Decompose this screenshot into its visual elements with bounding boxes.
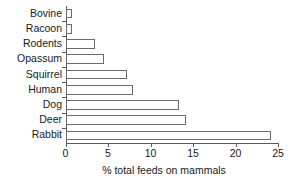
category-label-squirrel: Squirrel [26,69,62,80]
y-axis-tick [62,113,66,114]
x-axis-tick-label: 10 [145,147,157,159]
category-label-human: Human [28,84,62,95]
bar-rodents [66,39,96,49]
bar-squirrel [66,70,127,80]
bar-row [66,21,279,36]
y-axis-tick [62,21,66,22]
bar-chart-figure: BovineRacoonRodentsOpassumSquirrelHumanD… [0,0,300,184]
bar-bovine [66,9,73,19]
category-label-opassum: Opassum [17,53,62,64]
x-axis-tick-label: 20 [230,147,242,159]
category-label-deer: Deer [39,114,62,125]
plot-area [66,6,279,143]
x-axis-tick [278,143,279,147]
y-axis-tick [62,67,66,68]
category-label-racoon: Racoon [26,23,62,34]
x-axis-line [66,143,279,144]
bar-opassum [66,54,104,64]
bar-row [66,52,279,67]
x-axis-tick [66,143,67,147]
category-label-rabbit: Rabbit [32,129,62,140]
bar-row [66,36,279,51]
category-label-rodents: Rodents [23,38,62,49]
x-axis-tick-label: 15 [187,147,199,159]
bar-rabbit [66,131,272,141]
bar-row [66,113,279,128]
x-axis-tick [108,143,109,147]
bar-human [66,85,133,95]
bar-row [66,128,279,143]
category-label-dog: Dog [43,99,62,110]
x-axis-tick [193,143,194,147]
x-axis-tick [151,143,152,147]
category-label-bovine: Bovine [30,8,62,19]
x-axis-tick [236,143,237,147]
y-axis-tick [62,97,66,98]
bar-racoon [66,24,73,34]
y-axis-tick [62,82,66,83]
bar-row [66,82,279,97]
x-axis-tick-label: 25 [272,147,284,159]
x-axis-title: % total feeds on mammals [0,164,300,176]
bar-row [66,6,279,21]
bar-dog [66,100,180,110]
bar-deer [66,115,187,125]
x-axis-tick-label: 5 [105,147,111,159]
bar-row [66,97,279,112]
x-axis-tick-label: 0 [63,147,69,159]
y-axis-tick [62,128,66,129]
bar-row [66,67,279,82]
y-axis-tick [62,36,66,37]
y-axis-tick [62,52,66,53]
